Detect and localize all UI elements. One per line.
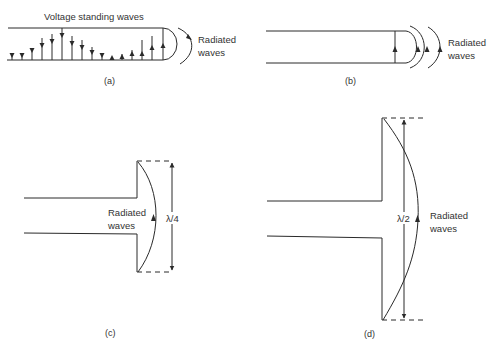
top-conductor-flange bbox=[24, 161, 137, 198]
field-arrow-icon bbox=[151, 214, 156, 221]
radiated-waves-label-line2: waves bbox=[429, 223, 457, 234]
panel-c: Radiated waves λ/4 (c) bbox=[24, 161, 183, 338]
radiated-waves-label-line2: waves bbox=[447, 50, 475, 61]
radiated-waves-label-line1: Radiated bbox=[448, 37, 486, 48]
voltage-standing-waves-label: Voltage standing waves bbox=[44, 11, 144, 22]
radiated-waves-label-line1: Radiated bbox=[430, 210, 468, 221]
radiated-wave-arrowhead-icon bbox=[186, 34, 192, 40]
bottom-conductor-flange bbox=[267, 236, 382, 320]
wavefront-arrow-icon bbox=[425, 46, 430, 52]
standing-wave-arrows-down bbox=[10, 28, 105, 60]
half-wavelength-label: λ/2 bbox=[397, 213, 410, 224]
standing-wave-arrows-up bbox=[110, 36, 166, 60]
panel-caption-d: (d) bbox=[364, 329, 375, 339]
field-arrow-icon bbox=[393, 46, 398, 52]
quarter-wavelength-label: λ/4 bbox=[166, 213, 179, 224]
panel-caption-b: (b) bbox=[345, 76, 356, 86]
radiated-waves-label-line1: Radiated bbox=[108, 207, 146, 218]
panel-caption-a: (a) bbox=[104, 76, 115, 86]
wavefront-2 bbox=[410, 26, 424, 68]
loop-end bbox=[163, 28, 177, 60]
panel-b: Radiated waves (b) bbox=[266, 26, 486, 86]
radiated-wave-arc bbox=[178, 28, 192, 64]
panel-d: λ/2 Radiated waves (d) bbox=[267, 118, 468, 339]
panel-a: Voltage standing waves bbox=[7, 11, 236, 86]
field-arrow-icon bbox=[415, 215, 420, 222]
wavefront-1 bbox=[406, 31, 417, 63]
antenna-radiation-diagram: Voltage standing waves bbox=[0, 0, 488, 352]
top-conductor-flange bbox=[267, 118, 382, 201]
radiated-waves-label-line1: Radiated bbox=[198, 34, 236, 45]
radiated-waves-label-line2: waves bbox=[197, 47, 225, 58]
wavefront-arrow-icon bbox=[438, 46, 443, 52]
panel-caption-c: (c) bbox=[105, 328, 116, 338]
bottom-conductor-flange bbox=[24, 233, 137, 272]
radiated-waves-label-line2: waves bbox=[107, 220, 135, 231]
wavefront-3 bbox=[428, 27, 440, 68]
